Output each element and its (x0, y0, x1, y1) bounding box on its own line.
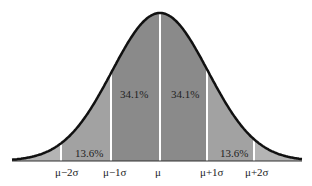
tick-mu-plus-2sigma: μ+2σ (245, 166, 269, 178)
label-right-inner-percent: 34.1% (171, 88, 199, 100)
tick-mu-minus-2sigma: μ−2σ (55, 166, 79, 178)
label-left-outer-percent: 13.6% (75, 147, 103, 159)
label-right-outer-percent: 13.6% (220, 147, 248, 159)
region-left-tail (0, 0, 61, 161)
region-right-inner (160, 0, 207, 161)
region-right-tail (254, 0, 312, 161)
normal-distribution-diagram: 13.6% 34.1% 34.1% 13.6% μ−2σ μ−1σ μ μ+1σ… (0, 0, 312, 186)
tick-mu: μ (155, 166, 161, 178)
shaded-regions (0, 0, 312, 161)
region-left-inner (111, 0, 160, 161)
tick-mu-plus-1sigma: μ+1σ (200, 166, 224, 178)
tick-mu-minus-1sigma: μ−1σ (103, 166, 127, 178)
label-left-inner-percent: 34.1% (120, 88, 148, 100)
